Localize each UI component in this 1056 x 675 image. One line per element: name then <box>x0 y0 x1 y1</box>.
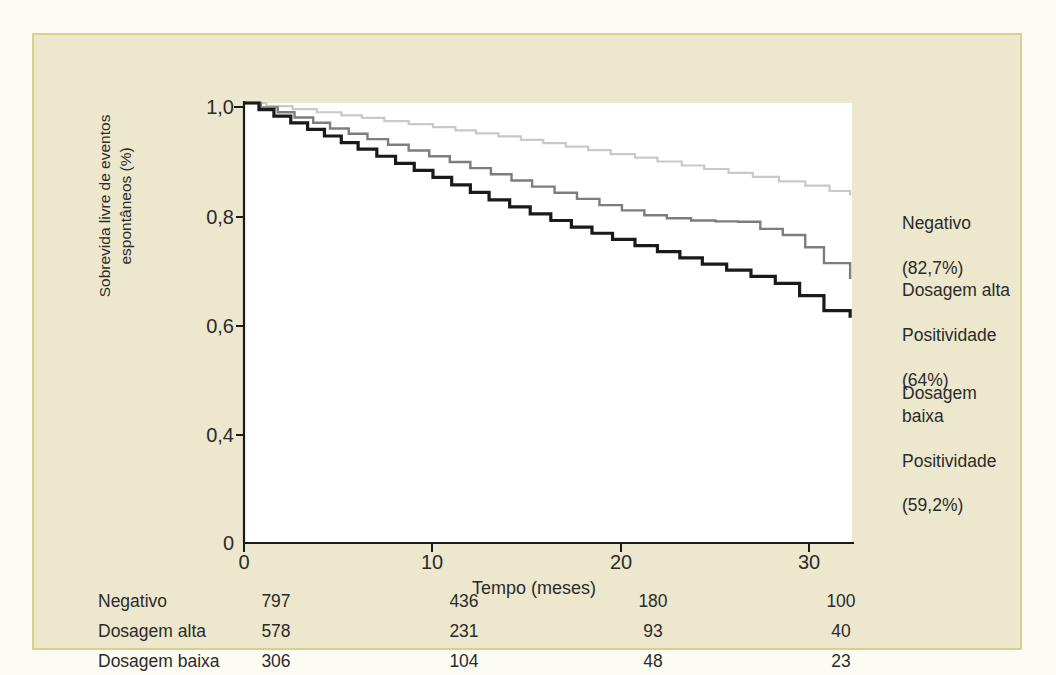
risk-row-label: Dosagem alta <box>98 621 206 642</box>
legend-item-dosagem-baixa: Dosagem baixa Positividade (59,2%) <box>902 360 1020 539</box>
y-axis-title: Sobrevida livre de eventos espontâneos (… <box>95 56 137 356</box>
y-axis-title-line2: espontâneos (%) <box>117 147 134 264</box>
ytick-0: 0 <box>189 533 234 534</box>
risk-value: 306 <box>246 651 306 672</box>
curve-negativo <box>244 103 850 195</box>
risk-value: 40 <box>811 621 871 642</box>
risk-value: 48 <box>623 651 683 672</box>
y-axis-title-line1: Sobrevida livre de eventos <box>95 56 116 356</box>
risk-value: 23 <box>811 651 871 672</box>
ytick-0-6: 0,6 <box>189 316 234 317</box>
ytick-1-0: 1,0 <box>189 97 234 98</box>
legend-dosagem-baixa-line2: Positividade <box>902 450 1020 472</box>
x-axis-ticks <box>244 543 809 552</box>
xtick-30: 30 <box>779 551 839 574</box>
risk-value: 100 <box>811 591 871 612</box>
xtick-10: 10 <box>402 551 462 574</box>
ytick-0-8: 0,8 <box>189 207 234 208</box>
risk-value: 436 <box>434 591 494 612</box>
table-row: Dosagem alta 578 231 93 40 <box>98 621 918 651</box>
curve-dosagem-baixa-positividade <box>244 103 850 318</box>
risk-value: 180 <box>623 591 683 612</box>
curve-dosagem-alta-positividade <box>244 103 850 279</box>
risk-row-label: Dosagem baixa <box>98 651 220 672</box>
legend-dosagem-baixa-line1: Dosagem baixa <box>902 382 1020 427</box>
risk-value: 104 <box>434 651 494 672</box>
legend-dosagem-alta-line1: Dosagem alta <box>902 279 1010 301</box>
xtick-20: 20 <box>591 551 651 574</box>
risk-value: 797 <box>246 591 306 612</box>
chart-frame: 1,0 0,8 0,6 0,4 0 0 10 20 30 Sobrevida l… <box>32 33 1022 650</box>
ytick-0-4: 0,4 <box>189 425 234 426</box>
risk-value: 578 <box>246 621 306 642</box>
table-row: Negativo 797 436 180 100 <box>98 591 918 621</box>
y-axis-ticks <box>234 107 244 435</box>
numbers-at-risk-table: Negativo 797 436 180 100 Dosagem alta 57… <box>98 591 918 675</box>
legend-dosagem-baixa-line3: (59,2%) <box>902 494 1020 516</box>
risk-value: 93 <box>623 621 683 642</box>
survival-curves <box>244 103 852 543</box>
legend-negativo-line1: Negativo <box>902 212 971 234</box>
legend-dosagem-alta-line2: Positividade <box>902 324 1010 346</box>
xtick-0: 0 <box>214 551 274 574</box>
figure-canvas: 1,0 0,8 0,6 0,4 0 0 10 20 30 Sobrevida l… <box>0 0 1056 675</box>
risk-row-label: Negativo <box>98 591 167 612</box>
risk-value: 231 <box>434 621 494 642</box>
table-row: Dosagem baixa 306 104 48 23 <box>98 651 918 675</box>
